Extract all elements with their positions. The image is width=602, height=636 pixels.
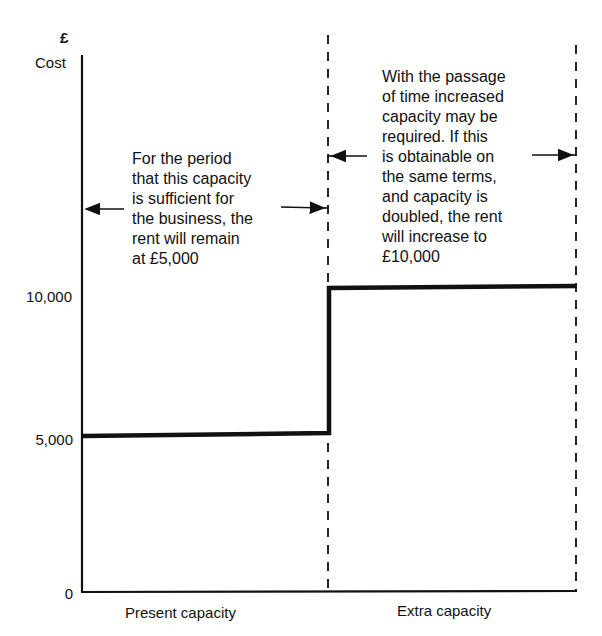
y-unit-label: £ [60,29,68,46]
y-axis-label: Cost [35,54,66,71]
y-tick-5000: 5,000 [13,431,73,448]
annotation-present-capacity: For the period that this capacity is suf… [132,149,253,269]
step-cost-diagram [0,0,602,636]
annotation-extra-capacity: With the passage of time increased capac… [382,67,506,267]
y-tick-0: 0 [13,585,73,602]
step-cost-line [83,286,577,436]
arrow-right-icon [281,207,324,208]
y-tick-10000: 10,000 [12,288,72,305]
x-axis [81,591,577,592]
x-category-present: Present capacity [125,604,236,621]
x-category-extra: Extra capacity [397,602,491,619]
